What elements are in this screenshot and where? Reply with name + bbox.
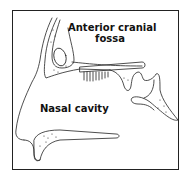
label-line-1: Anterior cranial <box>68 22 152 33</box>
frontal-bone-outline <box>16 18 52 140</box>
sphenoid-bone <box>110 70 178 120</box>
label-anterior-cranial-fossa: Anterior cranial fossa <box>68 22 152 44</box>
label-nasal-cavity: Nasal cavity <box>40 103 109 114</box>
label-line-2: fossa <box>68 33 152 44</box>
bone-stippling <box>39 29 166 146</box>
olfactory-fibers <box>84 72 108 81</box>
hard-palate <box>34 130 119 161</box>
